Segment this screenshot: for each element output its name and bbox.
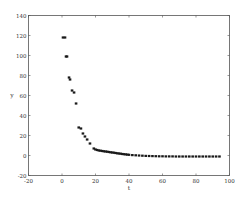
data-point [195,155,198,157]
data-point [68,76,71,78]
y-tick-label: 120 [16,33,27,39]
data-point [89,142,92,144]
x-tick-label: 40 [126,178,133,184]
plot-area [29,16,230,176]
data-point [168,155,171,157]
data-point [66,55,69,57]
x-tick-label: 100 [224,178,235,184]
data-point [218,155,221,157]
data-point [171,155,174,157]
data-point [181,155,184,157]
x-axis-label: t [128,184,131,191]
data-point [71,89,74,91]
data-point [161,155,164,157]
scatter-chart: -20020406080100 -20020406080100120140 t … [0,0,246,199]
data-point [208,155,211,157]
data-point [165,155,168,157]
data-point [84,135,87,137]
y-tick-label: 140 [16,13,27,19]
data-point [64,36,67,38]
data-point [158,155,161,157]
data-point [86,138,89,140]
data-point [82,132,85,134]
data-point [141,155,144,157]
data-point [205,155,208,157]
data-point [175,155,178,157]
data-point [75,102,78,104]
data-point [188,155,191,157]
y-tick-label: 60 [20,93,27,99]
data-point [80,127,83,129]
data-point [148,155,151,157]
y-axis-label: y [9,91,14,99]
y-tick-label: 100 [16,53,27,59]
data-point [138,154,141,156]
data-point [134,154,137,156]
data-point [144,155,147,157]
data-point [69,78,72,80]
data-point [128,154,131,156]
x-tick-label: 0 [60,178,64,184]
data-point [73,91,76,93]
x-tick-label: 60 [159,178,166,184]
data-point [178,155,181,157]
data-point [198,155,201,157]
y-tick-label: 20 [20,133,27,139]
data-point [191,155,194,157]
data-point [185,155,188,157]
y-tick-label: 80 [20,73,27,79]
y-tick-label: 40 [20,113,27,119]
x-tick-label: 20 [92,178,99,184]
data-point [211,155,214,157]
data-point [201,155,204,157]
x-tick-label: 80 [193,178,200,184]
data-point [131,154,134,156]
data-point [151,155,154,157]
y-tick-label: 0 [23,153,27,159]
data-point [155,155,158,157]
data-point [215,155,218,157]
y-tick-label: -20 [18,173,27,179]
